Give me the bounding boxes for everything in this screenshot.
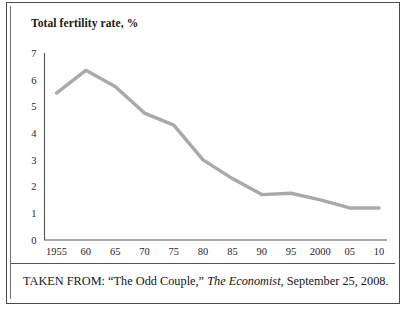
y-tick-6: 6 (31, 75, 36, 86)
chart-axes (45, 53, 388, 240)
x-axis-tick-labels: 1955606570758085909520000510 (46, 246, 384, 257)
x-tick-10: 10 (374, 246, 385, 257)
x-tick-65: 65 (110, 246, 121, 257)
x-tick-60: 60 (81, 246, 92, 257)
fertility-rate-line (57, 70, 380, 208)
line-chart-plot: 01234567 1955606570758085909520000510 (7, 3, 401, 261)
x-tick-05: 05 (344, 246, 355, 257)
x-tick-75: 75 (169, 246, 180, 257)
y-tick-7: 7 (31, 48, 36, 59)
figure-caption: TAKEN FROM: “The Odd Couple,” The Econom… (23, 274, 387, 289)
y-tick-0: 0 (31, 235, 36, 246)
caption-divider (11, 263, 395, 264)
x-tick-80: 80 (198, 246, 209, 257)
y-tick-3: 3 (31, 155, 36, 166)
x-tick-2000: 2000 (310, 246, 331, 257)
x-tick-90: 90 (256, 246, 267, 257)
caption-prefix-text: TAKEN FROM: “The Odd Couple,” (23, 274, 207, 288)
y-tick-2: 2 (31, 181, 36, 192)
y-tick-5: 5 (31, 101, 36, 112)
x-tick-95: 95 (286, 246, 297, 257)
x-tick-70: 70 (139, 246, 150, 257)
figure-container: Total fertility rate, % 01234567 1955606… (6, 2, 400, 304)
x-tick-1955: 1955 (46, 246, 67, 257)
y-tick-1: 1 (31, 208, 36, 219)
y-axis-tick-labels: 01234567 (31, 48, 37, 246)
caption-suffix-text: , September 25, 2008. (281, 274, 389, 288)
x-tick-85: 85 (227, 246, 238, 257)
chart-area: Total fertility rate, % 01234567 1955606… (7, 3, 399, 261)
y-tick-4: 4 (31, 128, 37, 139)
caption-source-title: The Economist (207, 274, 280, 288)
